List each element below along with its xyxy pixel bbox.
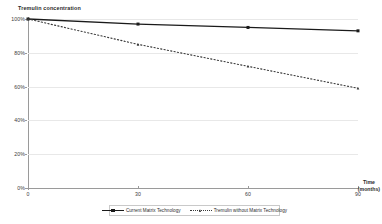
y-axis-tick-mark — [25, 120, 27, 121]
data-point-marker — [247, 26, 250, 29]
y-axis-tick-mark — [25, 154, 27, 155]
x-axis-unit-text: (months) — [358, 186, 380, 193]
solid-line-icon — [102, 208, 124, 214]
data-point-marker — [357, 29, 360, 32]
y-axis-tick-label: 0% — [17, 185, 25, 191]
y-axis-title: Tremulin concentration — [18, 5, 81, 11]
data-point-marker — [137, 23, 140, 26]
legend-item[interactable]: Current Matrix Technology — [102, 208, 181, 214]
y-axis-tick-label: 20% — [14, 151, 25, 157]
x-axis-title-text: Time — [363, 179, 375, 185]
y-axis-tick-label: 60% — [14, 84, 25, 90]
line-chart: Tremulin concentration 0%20%40%60%80%100… — [0, 0, 382, 224]
y-axis-ticks: 0%20%40%60%80%100% — [0, 19, 25, 188]
y-axis-tick-label: 80% — [14, 50, 25, 56]
y-axis-tick-mark — [25, 53, 27, 54]
x-axis-tick-label: 60 — [245, 191, 251, 197]
series-1 — [27, 18, 360, 33]
y-axis-tick-mark — [25, 188, 27, 189]
legend-item-label: Tremulin without Matrix Technology — [214, 208, 287, 213]
y-axis-tick-label: 40% — [14, 117, 25, 123]
legend-item[interactable]: Tremulin without Matrix Technology — [190, 208, 287, 214]
x-axis-tick-label: 0 — [27, 191, 30, 197]
y-axis-tick-mark — [25, 87, 27, 88]
x-axis-tick-label: 30 — [135, 191, 141, 197]
x-axis-line — [27, 188, 359, 189]
x-axis-title: Time (months) — [358, 179, 380, 192]
dotted-line-icon — [190, 208, 212, 214]
series-2 — [27, 18, 360, 90]
series-plot-area — [28, 19, 358, 188]
series-line — [28, 19, 358, 31]
legend-item-label: Current Matrix Technology — [126, 208, 181, 213]
chart-legend: Current Matrix TechnologyTremulin withou… — [109, 205, 280, 216]
y-axis-tick-label: 100% — [11, 16, 25, 22]
